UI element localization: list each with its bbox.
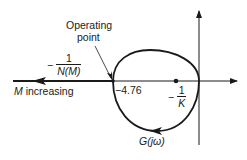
increasing-text: increasing — [23, 85, 74, 97]
g-jw-label: G(jω) — [139, 136, 165, 147]
fraction-denominator: N(M) — [56, 64, 81, 77]
minus-sign: − — [47, 59, 53, 71]
nyquist-diagram — [0, 0, 247, 160]
m-variable: M — [14, 85, 23, 97]
fraction-numerator: 1 — [65, 53, 73, 64]
operating-point-leader-line — [95, 46, 111, 78]
fraction-numerator: 1 — [178, 85, 186, 96]
operating-point-label-line2: point — [77, 32, 100, 43]
minus-sign: − — [168, 91, 174, 103]
inverse-k-point-marker — [174, 79, 179, 84]
operating-point-label-line1: Operating — [66, 20, 112, 31]
operating-point-marker — [111, 79, 115, 83]
fraction-denominator: K — [177, 96, 186, 109]
intercept-value-label: −4.76 — [115, 85, 142, 96]
neg-inverse-k-label: − 1 K — [168, 85, 186, 108]
m-increasing-label: M increasing — [14, 86, 74, 97]
neg-inverse-n-label: − 1 N(M) — [47, 53, 81, 76]
